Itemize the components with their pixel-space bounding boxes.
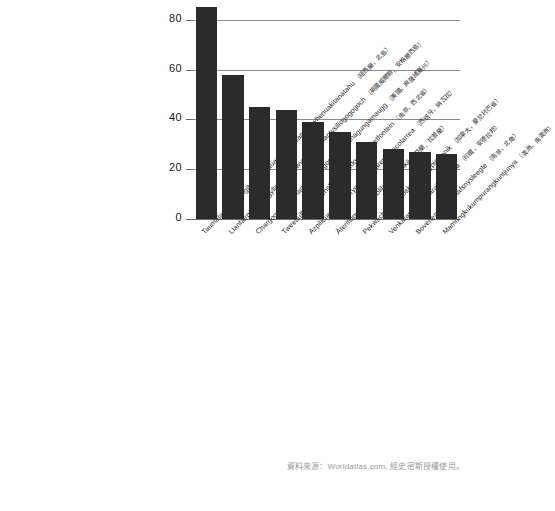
y-tick-label: 60 <box>169 62 182 74</box>
y-tick-60: 60 <box>150 70 193 71</box>
y-axis: 020406080 <box>150 0 193 220</box>
y-tick-40: 40 <box>150 119 193 120</box>
y-tick-20: 20 <box>150 169 193 170</box>
y-tick-label: 20 <box>169 161 182 173</box>
source-note: 資料來源：Worldatlas.com, 經史密斯授權使用。 <box>287 460 464 471</box>
y-tick-label: 40 <box>169 111 182 123</box>
bar[interactable] <box>196 7 217 219</box>
y-tick-mark <box>186 169 193 170</box>
y-tick-mark <box>186 20 193 21</box>
y-tick-label: 0 <box>175 211 182 223</box>
y-tick-mark <box>186 119 193 120</box>
x-label-annotation: （澳洲，南澳洲） <box>515 122 554 161</box>
gridline-80 <box>193 20 460 21</box>
y-tick-0: 0 <box>150 219 193 220</box>
y-tick-80: 80 <box>150 20 193 21</box>
y-tick-label: 80 <box>169 12 182 24</box>
y-tick-mark <box>186 70 193 71</box>
